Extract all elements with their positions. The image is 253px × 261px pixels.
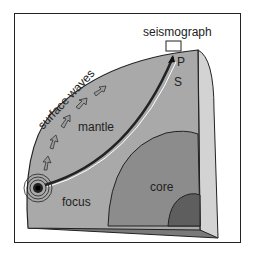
label-core: core [150,180,174,194]
label-focus: focus [62,195,91,209]
label-seismograph: seismograph [143,25,212,39]
label-mantle: mantle [78,120,114,134]
label-p-wave: P [177,55,185,69]
seismograph-icon [166,41,181,51]
earth-cross-section-diagram: seismograph P S surface waves mantle cor… [0,0,253,261]
label-s-wave: S [174,75,182,89]
